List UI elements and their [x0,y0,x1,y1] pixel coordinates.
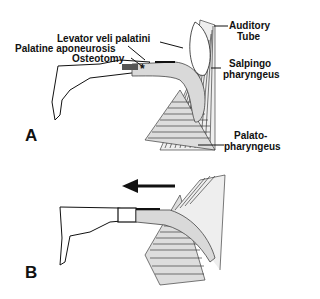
panel-b-drawing [60,175,225,285]
osteotomy-marker: * [140,64,145,74]
label-salpingo: Salpingo [229,59,271,69]
panel-label-b: B [25,263,37,283]
label-tube: Tube [237,32,260,42]
osteotomy-block-b [118,208,136,222]
label-salpingo-pharyngeus: pharyngeus [223,70,280,80]
label-osteotomy: Osteotomy [72,54,124,64]
panel-label-a: A [25,126,37,146]
label-auditory: Auditory [229,21,270,31]
arrow-left-icon [122,179,175,193]
label-palato: Palato- [234,131,267,141]
label-palato-pharyngeus: pharyngeus [224,142,281,152]
